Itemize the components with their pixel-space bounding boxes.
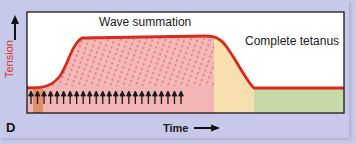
complete-tetanus-label: Complete tetanus <box>245 34 339 48</box>
x-axis-label: Time <box>163 122 188 134</box>
relaxation-region-base <box>214 86 254 113</box>
y-axis-label: Tension <box>3 40 15 78</box>
panel-letter: D <box>6 120 15 135</box>
up-arrow-icon <box>11 15 19 40</box>
wave-summation-label: Wave summation <box>99 15 191 29</box>
rest-region <box>254 89 344 113</box>
right-arrow-icon <box>194 125 220 132</box>
wave-summation-region <box>27 86 214 113</box>
